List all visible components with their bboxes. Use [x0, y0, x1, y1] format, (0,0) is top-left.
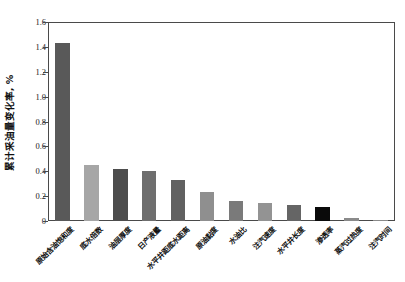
- x-tick-label: 原始含油饱和度: [0, 224, 75, 282]
- x-axis-tick-labels: 原始含油饱和度底水倍数油层厚度日产液量水平井距底水距离原油黏度水油比注汽速度水平…: [0, 0, 405, 282]
- chart-figure: 累计采油量变化率, % 00.20.40.60.81.01.21.41.6 原始…: [0, 0, 405, 282]
